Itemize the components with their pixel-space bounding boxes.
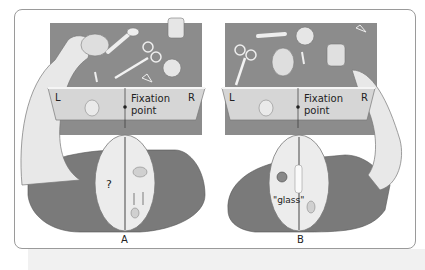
screen-label-left-b: L [229,92,235,103]
screen-a [48,88,205,120]
glass-representation-b [277,172,287,182]
fixation-label-a2: point [131,105,157,116]
brain-label-a: ? [106,178,112,191]
pear-object [81,34,109,56]
screen-b [222,88,375,120]
pear-image-b [259,100,273,116]
pear-image-a [85,100,99,116]
fixation-label-b1: Fixation [304,93,343,104]
spoon-object [258,34,285,36]
ball-object [296,27,314,45]
caption-a: A [121,234,128,245]
glass-object [327,44,345,66]
screen-label-left-a: L [55,92,61,103]
screen-label-right-a: R [188,92,195,103]
ball-object [163,59,181,77]
fixation-dot-a [123,105,127,109]
fixation-label-b2: point [304,105,330,116]
pear-representation-a [133,167,147,177]
fixation-label-a1: Fixation [131,93,170,104]
panel-a: L R Fixation point ? [21,18,205,232]
fixation-dot-b [296,105,300,109]
panel-b: L R Fixation point "glass" [222,23,402,232]
pear-object [272,48,294,76]
brain-label-b: "glass" [273,195,304,205]
spoon-head [127,28,139,36]
caption-b: B [297,234,304,245]
screen-label-right-b: R [361,92,368,103]
speech-area-a [131,208,139,218]
cup-object [168,18,184,38]
pear-representation-b [307,201,315,213]
split-brain-illustration: L R Fixation point ? L R Fixati [0,0,425,270]
